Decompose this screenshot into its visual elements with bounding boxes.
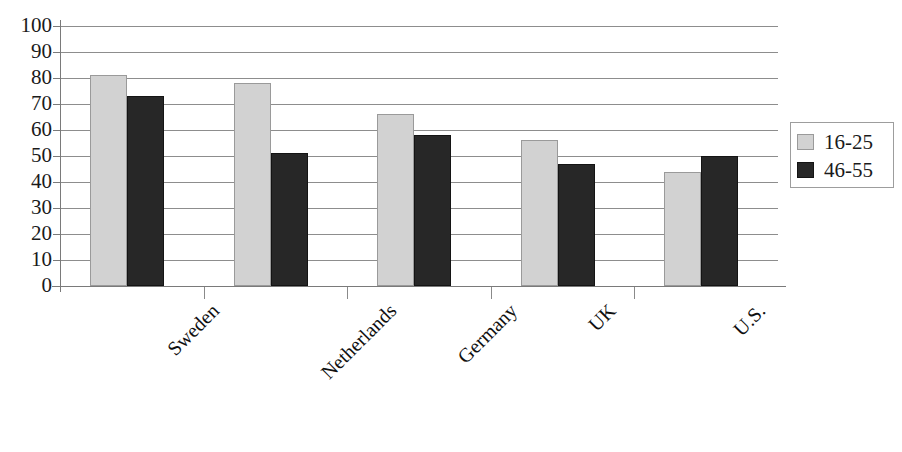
y-axis-tick-label: 60	[0, 119, 52, 140]
x-axis-label-sweden: Sweden	[164, 300, 223, 359]
legend-item-1: 46-55	[797, 158, 887, 182]
x-axis-separator	[347, 287, 348, 299]
legend-label-0: 16-25	[824, 132, 873, 153]
x-axis-label-uk: UK	[584, 300, 619, 335]
y-axis-tick-label: 80	[0, 67, 52, 88]
y-axis-tick-label: 90	[0, 41, 52, 62]
legend-label-1: 46-55	[824, 160, 873, 181]
y-axis-tick-label: 40	[0, 171, 52, 192]
bar-sweden-46-55	[127, 96, 164, 286]
x-axis-separator	[634, 287, 635, 299]
x-axis-separator	[204, 287, 205, 299]
y-axis-tick-label: 30	[0, 197, 52, 218]
bar-u-s--46-55	[701, 156, 738, 286]
legend-swatch-icon-46-55	[797, 162, 814, 178]
x-axis-label-netherlands: Netherlands	[317, 300, 399, 382]
bar-uk-46-55	[558, 164, 595, 286]
plot-area	[60, 26, 778, 286]
x-axis-line	[52, 286, 786, 287]
y-axis-tick-label: 70	[0, 93, 52, 114]
chart-container: 0102030405060708090100 SwedenNetherlands…	[0, 0, 902, 452]
y-axis-tick-label: 0	[0, 275, 52, 296]
legend-item-0: 16-25	[797, 130, 887, 154]
bar-uk-16-25	[521, 140, 558, 286]
bar-germany-16-25	[377, 114, 414, 286]
y-axis-tick-label: 20	[0, 223, 52, 244]
x-axis-label-u-s-: U.S.	[729, 300, 768, 339]
x-axis-label-germany: Germany	[454, 300, 521, 367]
legend: 16-25 46-55	[790, 122, 894, 188]
bar-u-s--16-25	[664, 172, 701, 286]
bar-netherlands-16-25	[234, 83, 271, 286]
y-axis-tick-label: 100	[0, 15, 52, 36]
x-axis-separator	[491, 287, 492, 299]
legend-swatch-icon-16-25	[797, 134, 814, 150]
bar-sweden-16-25	[90, 75, 127, 286]
y-axis-tick-label: 10	[0, 249, 52, 270]
y-axis-tick-label: 50	[0, 145, 52, 166]
bar-germany-46-55	[414, 135, 451, 286]
bar-netherlands-46-55	[271, 153, 308, 286]
